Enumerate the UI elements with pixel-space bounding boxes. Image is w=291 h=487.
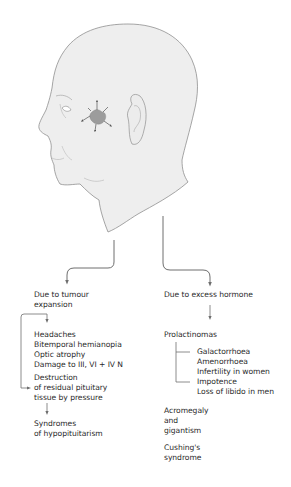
connector-right: [163, 216, 210, 284]
effect-item: Loss of libido in men: [197, 387, 274, 397]
effect-item: Headaches: [34, 330, 123, 340]
tumour-expansion-effects: Headaches Bitemporal hemianopia Optic at…: [34, 330, 123, 370]
outcome-line: of hypopituitarism: [34, 429, 103, 439]
destruction-line: Destruction: [34, 373, 107, 383]
acromegaly-line: Acromegaly: [164, 406, 208, 416]
left-heading-line: Due to tumour: [34, 290, 89, 300]
prolactinoma-men-effects: Impotence Loss of libido in men: [197, 377, 274, 397]
effect-item: Galactorrhoea: [197, 347, 270, 357]
head-outline: [39, 24, 198, 232]
hypopituitarism-block: Syndromes of hypopituitarism: [34, 419, 103, 439]
destruction-line: of residual pituitary: [34, 383, 107, 393]
effect-item: Infertility in women: [197, 367, 270, 377]
cushings-line: syndrome: [164, 453, 201, 463]
left-heading: Due to tumour expansion: [34, 290, 89, 310]
cushings-block: Cushing's syndrome: [164, 443, 201, 463]
outcome-line: Syndromes: [34, 419, 103, 429]
head-profile-illustration: [0, 0, 291, 487]
cushings-line: Cushing's: [164, 443, 201, 453]
prolactinomas-label: Prolactinomas: [164, 330, 217, 340]
effect-item: Optic atrophy: [34, 350, 123, 360]
acromegaly-line: gigantism: [164, 426, 208, 436]
connector-left: [67, 240, 114, 282]
effect-item: Amenorrhoea: [197, 357, 270, 367]
bracket-prolactinoma: [176, 342, 190, 382]
effect-item: Damage to III, VI + IV N: [34, 360, 123, 370]
effect-item: Bitemporal hemianopia: [34, 340, 123, 350]
right-heading: Due to excess hormone: [164, 290, 253, 300]
acromegaly-line: and: [164, 416, 208, 426]
effect-item: Impotence: [197, 377, 274, 387]
destruction-line: tissue by pressure: [34, 393, 107, 403]
destruction-block: Destruction of residual pituitary tissue…: [34, 373, 107, 403]
acromegaly-block: Acromegaly and gigantism: [164, 406, 208, 436]
pituitary-tumour-diagram: Due to tumour expansion Headaches Bitemp…: [0, 0, 291, 487]
left-heading-line: expansion: [34, 300, 89, 310]
prolactinoma-women-effects: Galactorrhoea Amenorrhoea Infertility in…: [197, 347, 270, 377]
